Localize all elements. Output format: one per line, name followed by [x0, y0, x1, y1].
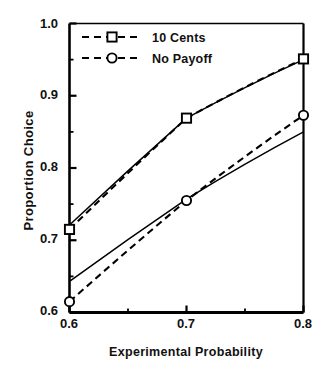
y-tick-label-1_0: 1.0 — [18, 16, 58, 31]
predicted-curves — [70, 60, 304, 282]
observed-curves — [70, 59, 304, 302]
x-axis-label: Experimental Probability — [69, 345, 303, 359]
x-tick-label-0_7: 0.7 — [166, 316, 206, 331]
x-tick-label-0_6: 0.6 — [49, 316, 89, 331]
y-axis-label: Proportion Choice — [21, 91, 36, 251]
x-tick-label-0_8: 0.8 — [283, 316, 323, 331]
data-markers — [65, 54, 308, 306]
legend-label-10-cents: 10 Cents — [152, 31, 206, 45]
legend-symbols — [82, 32, 142, 62]
axis-frame — [70, 24, 304, 313]
chart-figure: 1.0 0.9 0.8 0.7 0.6 0.6 0.7 0.8 Proporti… — [0, 0, 328, 371]
legend-label-no-payoff: No Payoff — [152, 52, 212, 66]
axis-ticks — [70, 24, 304, 313]
